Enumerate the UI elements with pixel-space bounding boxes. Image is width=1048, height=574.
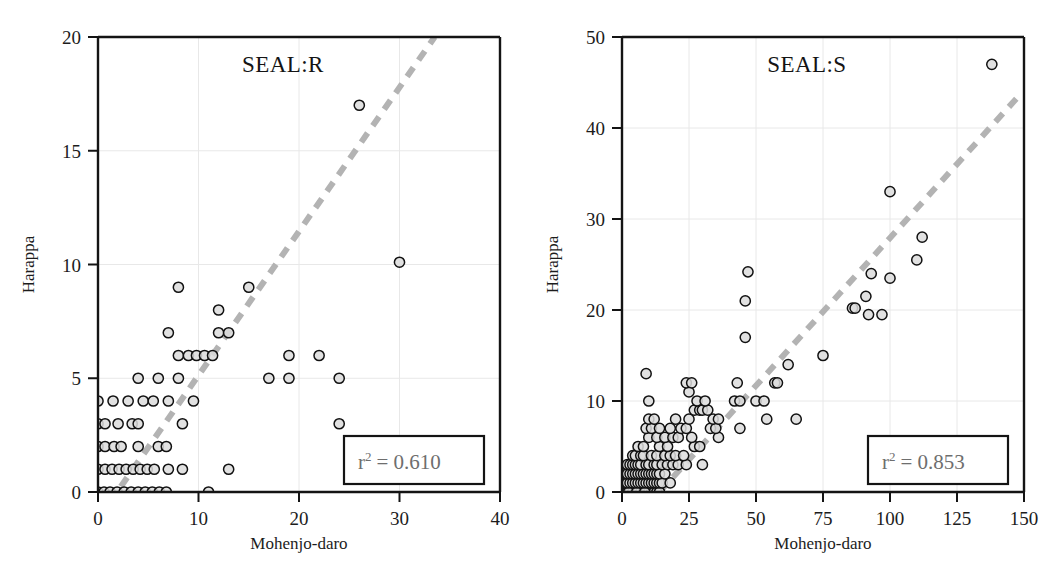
- data-point: [207, 350, 217, 360]
- data-points-group: [620, 59, 997, 497]
- scatter-panel-seal-r: 01020304005101520Mohenjo-daroHarappaSEAL…: [0, 0, 524, 574]
- data-point: [284, 350, 294, 360]
- data-point: [177, 419, 187, 429]
- data-point: [116, 441, 126, 451]
- data-point: [163, 328, 173, 338]
- data-point: [912, 255, 922, 265]
- data-point: [885, 187, 895, 197]
- data-point: [334, 419, 344, 429]
- data-point: [695, 441, 705, 451]
- gridlines: [98, 37, 500, 492]
- data-point: [138, 396, 148, 406]
- x-tick-label: 0: [93, 508, 103, 529]
- data-point: [161, 441, 171, 451]
- data-point: [163, 464, 173, 474]
- data-point: [641, 369, 651, 379]
- data-point: [772, 378, 782, 388]
- data-point: [866, 269, 876, 279]
- x-axis-ticks: 010203040: [93, 492, 509, 529]
- y-tick-label: 10: [62, 255, 81, 276]
- y-tick-label: 20: [586, 300, 605, 321]
- y-tick-label: 0: [596, 482, 606, 503]
- panel-title: SEAL:R: [242, 52, 324, 77]
- data-point: [885, 273, 895, 283]
- data-point: [762, 414, 772, 424]
- data-point: [224, 464, 234, 474]
- figure-root: 01020304005101520Mohenjo-daroHarappaSEAL…: [0, 0, 1048, 574]
- data-point: [987, 59, 997, 69]
- data-point: [113, 419, 123, 429]
- data-point: [133, 419, 143, 429]
- data-point: [177, 464, 187, 474]
- data-point: [148, 396, 158, 406]
- data-point: [877, 309, 887, 319]
- data-point: [173, 373, 183, 383]
- x-tick-label: 10: [189, 508, 208, 529]
- data-point: [740, 332, 750, 342]
- x-tick-label: 100: [876, 508, 905, 529]
- data-point: [644, 396, 654, 406]
- r-squared-annotation: r2= 0.610: [344, 436, 484, 484]
- data-point: [188, 396, 198, 406]
- data-point: [861, 291, 871, 301]
- data-point: [740, 296, 750, 306]
- y-tick-label: 40: [586, 118, 605, 139]
- y-tick-label: 30: [586, 209, 605, 230]
- x-tick-label: 75: [814, 508, 833, 529]
- x-tick-label: 40: [491, 508, 510, 529]
- data-point: [394, 257, 404, 267]
- x-tick-label: 30: [390, 508, 409, 529]
- y-tick-label: 10: [586, 391, 605, 412]
- x-axis-title: Mohenjo-daro: [250, 534, 347, 553]
- data-point: [735, 396, 745, 406]
- y-axis-title: Harappa: [543, 235, 562, 293]
- data-point: [713, 414, 723, 424]
- data-point: [917, 232, 927, 242]
- data-point: [264, 373, 274, 383]
- data-point: [697, 460, 707, 470]
- data-point: [818, 350, 828, 360]
- plot-area-left: 01020304005101520Mohenjo-daroHarappaSEAL…: [0, 0, 524, 574]
- x-tick-label: 150: [1010, 508, 1039, 529]
- data-point: [687, 378, 697, 388]
- data-point: [133, 373, 143, 383]
- data-point: [850, 303, 860, 313]
- data-point: [244, 282, 254, 292]
- data-point: [314, 350, 324, 360]
- x-axis-title: Mohenjo-daro: [774, 534, 871, 553]
- data-point: [163, 396, 173, 406]
- data-point: [224, 328, 234, 338]
- data-point: [100, 419, 110, 429]
- data-point: [671, 414, 681, 424]
- data-point: [649, 414, 659, 424]
- data-point: [214, 328, 224, 338]
- y-axis-title: Harappa: [19, 235, 38, 293]
- data-point: [149, 464, 159, 474]
- data-point: [284, 373, 294, 383]
- data-point: [700, 396, 710, 406]
- scatter-panel-seal-s: 025507510012515001020304050Mohenjo-daroH…: [524, 0, 1048, 574]
- data-point: [791, 414, 801, 424]
- data-point: [108, 396, 118, 406]
- data-point: [334, 373, 344, 383]
- data-point: [743, 267, 753, 277]
- panel-title: SEAL:S: [767, 52, 846, 77]
- data-point: [173, 282, 183, 292]
- data-point: [214, 305, 224, 315]
- x-tick-label: 25: [680, 508, 699, 529]
- x-axis-ticks: 0255075100125150: [617, 492, 1038, 529]
- plot-area-right: 025507510012515001020304050Mohenjo-daroH…: [524, 0, 1048, 574]
- y-tick-label: 5: [72, 368, 82, 389]
- y-tick-label: 15: [62, 141, 81, 162]
- x-tick-label: 50: [747, 508, 766, 529]
- y-tick-label: 0: [72, 482, 82, 503]
- data-point: [123, 396, 133, 406]
- data-point: [173, 350, 183, 360]
- y-tick-label: 20: [62, 27, 81, 48]
- x-tick-label: 20: [290, 508, 309, 529]
- data-point: [354, 100, 364, 110]
- x-tick-label: 125: [943, 508, 972, 529]
- data-point: [735, 423, 745, 433]
- r-squared-annotation: r2= 0.853: [868, 436, 1008, 484]
- data-point: [863, 309, 873, 319]
